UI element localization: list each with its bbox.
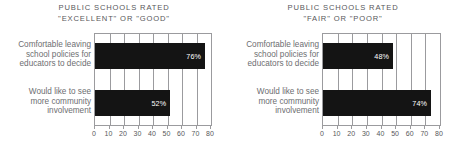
category-label-right-0: Comfortable leaving school policies for … bbox=[229, 40, 319, 69]
tick-label-left-80: 80 bbox=[206, 130, 214, 137]
category-label-left-1: Would like to see more community involve… bbox=[1, 87, 91, 116]
tick-mark-right-40 bbox=[381, 126, 382, 129]
category-label-left-1-line-3: involvement bbox=[1, 106, 91, 116]
category-label-right-1-line-2: more community bbox=[229, 97, 319, 107]
category-label-left-0-line-1: Comfortable leaving bbox=[1, 40, 91, 50]
tick-mark-right-50 bbox=[395, 126, 396, 129]
tick-label-left-30: 30 bbox=[134, 130, 142, 137]
tick-mark-right-20 bbox=[351, 126, 352, 129]
category-label-right-1-line-1: Would like to see bbox=[229, 87, 319, 97]
tick-mark-right-30 bbox=[366, 126, 367, 129]
tick-label-right-60: 60 bbox=[406, 130, 414, 137]
tick-mark-left-10 bbox=[109, 126, 110, 129]
tick-label-left-40: 40 bbox=[148, 130, 156, 137]
chart-title-right: PUBLIC SCHOOLS RATED "FAIR" OR "POOR" bbox=[229, 3, 457, 24]
category-label-left-0-line-3: educators to decide bbox=[1, 59, 91, 69]
chart-title-left: PUBLIC SCHOOLS RATED "EXCELLENT" OR "GOO… bbox=[0, 3, 228, 24]
tick-mark-left-40 bbox=[152, 126, 153, 129]
bar-left-1: 52% bbox=[95, 90, 170, 116]
tick-mark-right-10 bbox=[337, 126, 338, 129]
tick-label-left-0: 0 bbox=[92, 130, 96, 137]
tick-mark-right-70 bbox=[424, 126, 425, 129]
tick-label-right-70: 70 bbox=[420, 130, 428, 137]
tick-label-right-80: 80 bbox=[435, 130, 443, 137]
chart-panel-excellent-good: PUBLIC SCHOOLS RATED "EXCELLENT" OR "GOO… bbox=[0, 0, 228, 150]
tick-mark-left-60 bbox=[181, 126, 182, 129]
bar-value-right-0: 48% bbox=[374, 52, 389, 61]
tick-label-right-50: 50 bbox=[391, 130, 399, 137]
category-label-right-0-line-3: educators to decide bbox=[229, 59, 319, 69]
tick-mark-left-30 bbox=[138, 126, 139, 129]
tick-mark-left-20 bbox=[123, 126, 124, 129]
plot-area-right: 48% 74% bbox=[322, 33, 441, 126]
tick-label-right-20: 20 bbox=[347, 130, 355, 137]
bar-value-left-0: 76% bbox=[186, 52, 201, 61]
tick-label-right-40: 40 bbox=[377, 130, 385, 137]
bar-right-0: 48% bbox=[323, 43, 393, 69]
category-label-left-0: Comfortable leaving school policies for … bbox=[1, 40, 91, 69]
chart-figure: PUBLIC SCHOOLS RATED "EXCELLENT" OR "GOO… bbox=[0, 0, 457, 150]
tick-label-right-0: 0 bbox=[320, 130, 324, 137]
chart-title-right-line-2: "FAIR" OR "POOR" bbox=[229, 14, 457, 25]
tick-label-left-60: 60 bbox=[177, 130, 185, 137]
category-label-right-0-line-1: Comfortable leaving bbox=[229, 40, 319, 50]
category-label-right-1: Would like to see more community involve… bbox=[229, 87, 319, 116]
plot-area-left: 76% 52% bbox=[94, 33, 212, 126]
tick-mark-right-80 bbox=[439, 126, 440, 129]
category-label-right-0-line-2: school policies for bbox=[229, 50, 319, 60]
tick-mark-left-70 bbox=[196, 126, 197, 129]
chart-title-right-line-1: PUBLIC SCHOOLS RATED bbox=[229, 3, 457, 14]
bar-right-1: 74% bbox=[323, 90, 431, 116]
tick-label-right-10: 10 bbox=[333, 130, 341, 137]
x-axis-right: 01020304050607080 bbox=[322, 126, 441, 148]
chart-title-left-line-2: "EXCELLENT" OR "GOOD" bbox=[0, 14, 228, 25]
chart-title-left-line-1: PUBLIC SCHOOLS RATED bbox=[0, 3, 228, 14]
tick-mark-right-0 bbox=[322, 126, 323, 129]
tick-mark-left-0 bbox=[94, 126, 95, 129]
bar-value-left-1: 52% bbox=[151, 99, 166, 108]
tick-mark-left-50 bbox=[167, 126, 168, 129]
category-label-left-1-line-1: Would like to see bbox=[1, 87, 91, 97]
tick-label-left-20: 20 bbox=[119, 130, 127, 137]
tick-label-left-70: 70 bbox=[192, 130, 200, 137]
tick-mark-left-80 bbox=[210, 126, 211, 129]
category-label-left-0-line-2: school policies for bbox=[1, 50, 91, 60]
tick-mark-right-60 bbox=[410, 126, 411, 129]
bar-value-right-1: 74% bbox=[412, 99, 427, 108]
tick-label-left-10: 10 bbox=[105, 130, 113, 137]
tick-label-left-50: 50 bbox=[163, 130, 171, 137]
x-axis-left: 01020304050607080 bbox=[94, 126, 212, 148]
bar-left-0: 76% bbox=[95, 43, 205, 69]
chart-panel-fair-poor: PUBLIC SCHOOLS RATED "FAIR" OR "POOR" Co… bbox=[229, 0, 457, 150]
tick-label-right-30: 30 bbox=[362, 130, 370, 137]
category-label-right-1-line-3: involvement bbox=[229, 106, 319, 116]
category-label-left-1-line-2: more community bbox=[1, 97, 91, 107]
